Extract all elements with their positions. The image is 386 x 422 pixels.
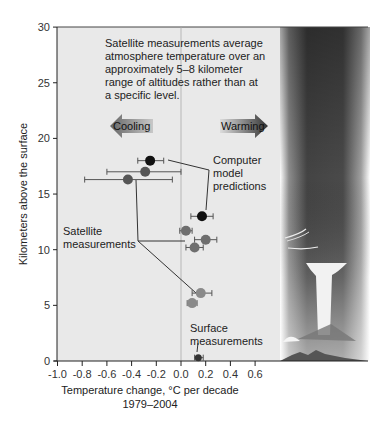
x-axis-sublabel: 1979–2004 xyxy=(122,398,177,410)
y-tick-label: 20 xyxy=(38,132,50,144)
y-tick-label: 10 xyxy=(38,244,50,256)
x-tick-label: -1.0 xyxy=(48,368,67,380)
svg-text:Computer: Computer xyxy=(213,154,262,166)
svg-text:model: model xyxy=(213,167,243,179)
y-tick-label: 15 xyxy=(38,188,50,200)
svg-text:atmosphere temperature over an: atmosphere temperature over an xyxy=(105,50,265,62)
x-tick-label: 0.6 xyxy=(247,368,262,380)
svg-text:Satellite measurements average: Satellite measurements average xyxy=(105,37,263,49)
svg-text:Warming: Warming xyxy=(221,120,265,132)
y-tick-label: 25 xyxy=(38,77,50,89)
data-point xyxy=(187,298,197,308)
atmosphere-illustration xyxy=(280,27,370,361)
svg-text:Cooling: Cooling xyxy=(113,120,150,132)
x-tick-label: 0.4 xyxy=(223,368,238,380)
svg-text:measurements: measurements xyxy=(190,335,263,347)
x-tick-label: 0.0 xyxy=(173,368,188,380)
svg-text:predictions: predictions xyxy=(213,180,267,192)
svg-text:a specific level.: a specific level. xyxy=(105,89,180,101)
x-axis-ticks: -1.0-0.8-0.6-0.4-0.20.00.20.40.6 xyxy=(48,361,263,380)
svg-text:measurements: measurements xyxy=(63,238,136,250)
x-tick-label: -0.8 xyxy=(73,368,92,380)
x-tick-label: -0.2 xyxy=(147,368,166,380)
y-axis-label: Kilometers above the surface xyxy=(17,123,29,265)
svg-text:Satellite: Satellite xyxy=(63,225,102,237)
x-axis-label: Temperature change, °C per decade xyxy=(61,384,238,396)
x-tick-label: -0.6 xyxy=(97,368,116,380)
y-tick-label: 30 xyxy=(38,21,50,33)
y-tick-label: 5 xyxy=(44,299,50,311)
y-tick-label: 0 xyxy=(44,355,50,367)
x-tick-label: -0.4 xyxy=(122,368,141,380)
y-axis-ticks: 051015202530 xyxy=(38,21,57,367)
svg-text:approximately 5–8 kilometer: approximately 5–8 kilometer xyxy=(105,63,243,75)
x-tick-label: 0.2 xyxy=(198,368,213,380)
temperature-altitude-chart: 051015202530 -1.0-0.8-0.6-0.4-0.20.00.20… xyxy=(0,0,386,422)
svg-text:range of altitudes rather than: range of altitudes rather than at xyxy=(105,76,258,88)
svg-text:Surface: Surface xyxy=(190,322,228,334)
